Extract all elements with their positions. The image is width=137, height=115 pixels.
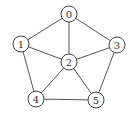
edge-0-3 xyxy=(69,14,117,45)
node-3: 3 xyxy=(109,37,125,53)
node-label: 2 xyxy=(66,57,72,68)
node-0: 0 xyxy=(61,6,77,22)
node-label: 5 xyxy=(93,95,99,106)
node-label: 1 xyxy=(18,39,24,50)
graph-diagram: 012345 xyxy=(0,0,137,115)
nodes-group: 012345 xyxy=(13,6,125,108)
edge-1-4 xyxy=(21,44,36,99)
edge-4-5 xyxy=(36,99,96,100)
node-2: 2 xyxy=(61,54,77,70)
node-label: 4 xyxy=(33,94,39,105)
node-1: 1 xyxy=(13,36,29,52)
node-4: 4 xyxy=(28,91,44,107)
node-label: 3 xyxy=(114,40,120,51)
node-label: 0 xyxy=(66,9,72,20)
node-5: 5 xyxy=(88,92,104,108)
graph-svg: 012345 xyxy=(0,0,137,115)
edge-3-5 xyxy=(96,45,117,100)
